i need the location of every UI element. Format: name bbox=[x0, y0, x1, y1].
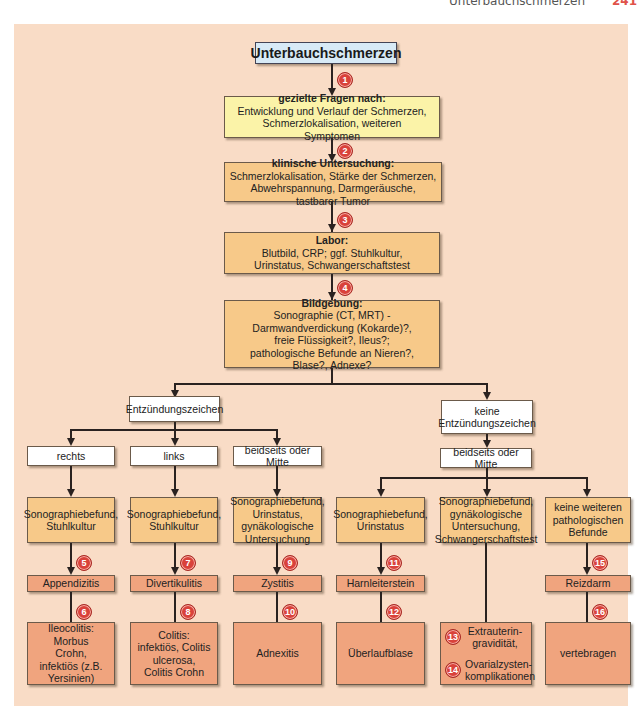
finding-col3: Sonographiebefund, Urinstatus, gynäkolog… bbox=[233, 497, 322, 543]
connector bbox=[174, 383, 488, 385]
arrow-icon bbox=[171, 567, 179, 575]
branch-label: keine Entzündungszeichen bbox=[438, 405, 535, 430]
step-clinical-exam: klinische Untersuchung: Schmerzlokalisat… bbox=[224, 162, 442, 202]
diagnosis-label: Divertikulitis bbox=[146, 577, 202, 590]
diagnosis-ureteral-stone: Harnleiterstein bbox=[336, 575, 425, 592]
outcome-colitis: Colitis: infektiös, Colitis ulcerosa, Co… bbox=[130, 622, 218, 685]
outcome-badge: 13 bbox=[445, 629, 461, 645]
diagnosis-irritable-bowel: Reizdarm bbox=[545, 575, 631, 592]
location-label: beidseits oder Mitte bbox=[445, 446, 527, 471]
arrow-icon bbox=[273, 567, 281, 575]
arrow-icon bbox=[377, 489, 385, 497]
arrow-icon bbox=[483, 392, 491, 400]
outcome-gynecologic: 13 Extrauterin-gravidität, 14 Ovarialzys… bbox=[440, 622, 532, 685]
finding-label: Sonographiebefund, Urinstatus bbox=[333, 508, 428, 533]
location-label: rechts bbox=[57, 450, 86, 463]
location-right: rechts bbox=[27, 446, 115, 466]
diagnosis-diverticulitis: Divertikulitis bbox=[130, 575, 218, 592]
branch-no-inflammation: keine Entzündungszeichen bbox=[441, 400, 533, 434]
outcome-label: Überlaufblase bbox=[348, 647, 413, 660]
outcome-adnexitis: Adnexitis bbox=[233, 622, 322, 685]
step-badge: 3 bbox=[337, 212, 353, 228]
outcome-label: Colitis: infektiös, Colitis ulcerosa, Co… bbox=[135, 629, 213, 679]
finding-label: Sonographiebefund, gynäkologische Unters… bbox=[435, 495, 538, 545]
branch-inflammation: Entzündungszeichen bbox=[129, 396, 220, 422]
arrow-icon bbox=[328, 224, 336, 232]
step-questions: gezielte Fragen nach: Entwicklung und Ve… bbox=[224, 96, 440, 138]
location-left: links bbox=[130, 446, 218, 466]
finding-col2: Sonographiebefund, Stuhlkultur bbox=[130, 497, 218, 543]
diagnosis-label: Harnleiterstein bbox=[347, 577, 415, 590]
step-body: Entwicklung und Verlauf der Schmerzen, S… bbox=[229, 105, 435, 143]
connector bbox=[380, 477, 588, 479]
diagnosis-badge: 7 bbox=[180, 555, 196, 571]
finding-label: keine weiteren pathologischen Befunde bbox=[547, 501, 630, 539]
arrow-icon bbox=[67, 489, 75, 497]
arrow-icon bbox=[67, 438, 75, 446]
finding-col4: Sonographiebefund, Urinstatus bbox=[336, 497, 425, 543]
connector bbox=[70, 592, 72, 622]
step-heading: gezielte Fragen nach: bbox=[278, 92, 385, 105]
step-heading: klinische Untersuchung: bbox=[272, 157, 395, 170]
step-badge: 1 bbox=[337, 72, 353, 88]
step-body: Schmerzlokalisation, Stärke der Schmerze… bbox=[229, 170, 437, 208]
step-body: Sonographie (CT, MRT) - Darmwandverdicku… bbox=[229, 309, 435, 372]
location-label: links bbox=[163, 450, 184, 463]
step-lab: Labor: Blutbild, CRP; ggf. Stuhlkultur, … bbox=[224, 232, 440, 274]
flowchart-title: Unterbauchschmerzen bbox=[255, 42, 397, 64]
outcome-vertebrogenic: vertebragen bbox=[545, 622, 631, 685]
connector bbox=[586, 592, 588, 622]
finding-col1: Sonographiebefund, Stuhlkultur bbox=[27, 497, 115, 543]
outcome-label: vertebragen bbox=[560, 647, 616, 660]
outcome-label: Ovarialzysten-komplikationen bbox=[465, 658, 531, 683]
step-body: Blutbild, CRP; ggf. Stuhlkultur, Urinsta… bbox=[229, 247, 435, 272]
location-both-center-b: beidseits oder Mitte bbox=[440, 448, 532, 468]
step-imaging: Bildgebung: Sonographie (CT, MRT) - Darm… bbox=[224, 300, 440, 368]
connector bbox=[276, 592, 278, 622]
diagnosis-label: Reizdarm bbox=[566, 577, 611, 590]
step-badge: 4 bbox=[337, 280, 353, 296]
outcome-badge: 10 bbox=[282, 604, 298, 620]
location-label: beidseits oder Mitte bbox=[238, 444, 317, 469]
outcome-label: Adnexitis bbox=[256, 647, 299, 660]
arrow-icon bbox=[67, 567, 75, 575]
diagnosis-badge: 11 bbox=[386, 555, 402, 571]
finding-col6: keine weiteren pathologischen Befunde bbox=[545, 497, 631, 543]
finding-label: Sonographiebefund, Stuhlkultur bbox=[24, 508, 119, 533]
outcome-badge: 12 bbox=[386, 604, 402, 620]
arrow-icon bbox=[583, 489, 591, 497]
outcome-badge: 8 bbox=[180, 604, 196, 620]
branch-label: Entzündungszeichen bbox=[126, 403, 224, 416]
finding-label: Sonographiebefund, Stuhlkultur bbox=[127, 508, 222, 533]
diagnosis-badge: 5 bbox=[76, 555, 92, 571]
outcome-label: Ileocolitis: Morbus Crohn, infektiös (z.… bbox=[32, 622, 110, 685]
arrow-icon bbox=[171, 438, 179, 446]
outcome-item: 13 Extrauterin-gravidität, bbox=[445, 625, 525, 650]
connector bbox=[174, 592, 176, 622]
arrow-icon bbox=[583, 567, 591, 575]
arrow-icon bbox=[171, 489, 179, 497]
outcome-overflow-bladder: Überlaufblase bbox=[336, 622, 425, 685]
connector bbox=[380, 592, 382, 622]
arrow-icon bbox=[377, 567, 385, 575]
connector bbox=[331, 368, 333, 384]
step-heading: Bildgebung: bbox=[301, 297, 362, 310]
running-title: Unterbauchschmerzen bbox=[449, 0, 585, 8]
diagnosis-label: Appendizitis bbox=[43, 577, 100, 590]
outcome-badge: 14 bbox=[445, 662, 461, 678]
outcome-badge: 16 bbox=[592, 604, 608, 620]
page-header: Unterbauchschmerzen 241 bbox=[0, 0, 643, 18]
outcome-badge: 6 bbox=[76, 604, 92, 620]
diagnosis-badge: 15 bbox=[592, 555, 608, 571]
outcome-label: Extrauterin-gravidität, bbox=[465, 625, 525, 650]
finding-col5: Sonographiebefund, gynäkologische Unters… bbox=[440, 497, 532, 543]
diagnosis-badge: 9 bbox=[282, 555, 298, 571]
finding-label: Sonographiebefund, Urinstatus, gynäkolog… bbox=[230, 495, 325, 545]
diagnosis-appendicitis: Appendizitis bbox=[27, 575, 115, 592]
outcome-item: 14 Ovarialzysten-komplikationen bbox=[445, 658, 531, 683]
diagnosis-cystitis: Zystitis bbox=[233, 575, 322, 592]
outcome-ileocolitis: Ileocolitis: Morbus Crohn, infektiös (z.… bbox=[27, 622, 115, 685]
step-heading: Labor: bbox=[316, 234, 349, 247]
location-both-center-a: beidseits oder Mitte bbox=[233, 446, 322, 466]
title-text: Unterbauchschmerzen bbox=[251, 47, 402, 60]
